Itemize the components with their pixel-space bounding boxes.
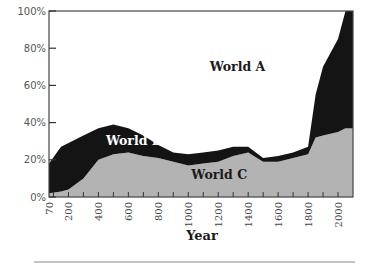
y-tick-label: 60%: [24, 80, 46, 91]
label-world-a: World A: [209, 59, 266, 74]
x-tick-label: 1800: [303, 202, 314, 227]
y-tick-label: 20%: [24, 154, 46, 165]
stacked-area-chart: 0%20%40%60%80%100% 702004006008001000120…: [0, 0, 367, 269]
label-world-c: World C: [190, 167, 247, 182]
x-tick-label: 1200: [213, 202, 224, 227]
x-tick-label: 1600: [273, 202, 284, 227]
x-tick-label: 70: [44, 202, 55, 215]
x-tick-label: 600: [123, 202, 134, 221]
y-tick-label: 0%: [30, 192, 46, 203]
x-tick-label: 2000: [333, 202, 344, 227]
x-tick-label: 400: [93, 202, 104, 221]
x-axis-title: Year: [185, 228, 218, 243]
x-tick-label: 1000: [183, 202, 194, 227]
y-tick-label: 80%: [24, 43, 46, 54]
y-tick-label: 40%: [24, 117, 46, 128]
x-tick-label: 800: [153, 202, 164, 221]
x-tick-label: 200: [63, 202, 74, 221]
y-tick-label: 100%: [17, 6, 46, 17]
x-tick-label: 1400: [243, 202, 254, 227]
label-world-b: World B: [105, 133, 162, 148]
